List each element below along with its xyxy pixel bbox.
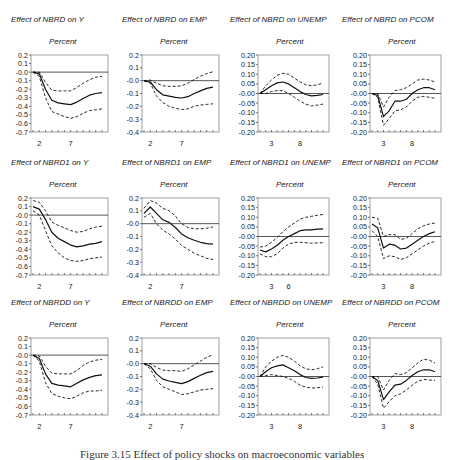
y-tick-label: -0.15 (351, 401, 367, 410)
y-tick-label: -0.00 (351, 372, 367, 381)
x-tick-label: 3 (381, 422, 385, 431)
figure-caption: Figure 3.15 Effect of policy shocks on m… (80, 448, 364, 460)
x-tick-label: 8 (410, 422, 414, 431)
y-tick-label: -0.20 (351, 411, 367, 420)
y-tick-label: 0.10 (353, 353, 367, 362)
y-tick-label: -0.05 (351, 382, 367, 391)
y-tick-label: 0.15 (353, 343, 367, 352)
response-line (372, 370, 435, 400)
upper-band-line (372, 359, 435, 390)
y-tick-label: 0.05 (353, 362, 367, 371)
y-tick-label: -0.10 (351, 391, 367, 400)
y-tick-label: 0.20 (353, 334, 367, 343)
